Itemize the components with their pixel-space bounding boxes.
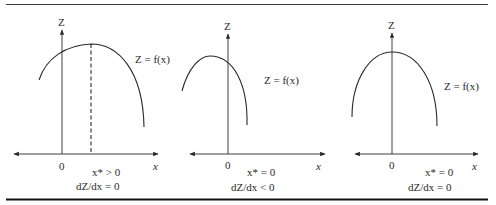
function-label: Z = f(x) xyxy=(444,80,479,93)
condition-derivative: dZ/dx = 0 xyxy=(408,181,452,193)
panel-1: Z x 0 Z = f(x) x* > 0 dZ/dx = 0 xyxy=(14,16,170,192)
condition-derivative: dZ/dx = 0 xyxy=(76,180,120,192)
x-axis-label: x xyxy=(152,160,158,172)
z-axis-label: Z xyxy=(58,16,65,28)
condition-optimum: x* > 0 xyxy=(92,166,121,178)
origin-label: 0 xyxy=(59,160,65,172)
z-axis-label: Z xyxy=(224,20,231,32)
z-axis-label: Z xyxy=(388,19,395,31)
condition-derivative: dZ/dx < 0 xyxy=(231,181,275,193)
panel-3: Z x 0 Z = f(x) x* = 0 dZ/dx = 0 xyxy=(352,19,479,193)
x-axis-label: x xyxy=(315,160,321,172)
condition-optimum: x* = 0 xyxy=(425,166,454,178)
x-axis-label: x xyxy=(471,160,477,172)
function-curve xyxy=(352,52,437,126)
condition-optimum: x* = 0 xyxy=(247,166,276,178)
origin-label: 0 xyxy=(389,159,395,171)
function-label: Z = f(x) xyxy=(264,74,299,87)
function-curve xyxy=(182,56,247,125)
diagram-canvas: Z x 0 Z = f(x) x* > 0 dZ/dx = 0 Z x 0 Z … xyxy=(0,0,496,205)
origin-label: 0 xyxy=(225,159,231,171)
function-label: Z = f(x) xyxy=(135,53,170,66)
panel-2: Z x 0 Z = f(x) x* = 0 dZ/dx < 0 xyxy=(182,20,325,193)
